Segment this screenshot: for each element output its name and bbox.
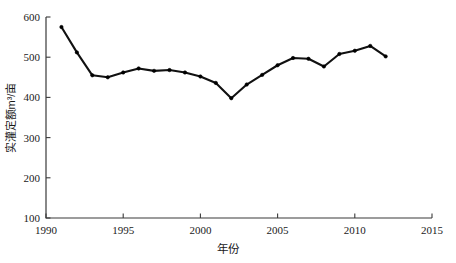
data-point-marker [152,69,155,72]
data-point-marker [75,51,78,54]
data-point-marker [338,52,341,55]
y-axis-tick-label: 500 [24,51,41,63]
data-point-marker [230,97,233,100]
data-point-marker [353,49,356,52]
data-point-marker [91,74,94,77]
y-axis-tick-label: 300 [24,132,41,144]
data-point-marker [291,56,294,59]
y-axis-tick-label: 200 [24,172,41,184]
data-point-marker [183,71,186,74]
axis-spines [46,17,432,218]
x-axis-tick-label: 2005 [267,224,290,236]
data-point-marker [168,68,171,71]
data-series-line [61,27,385,98]
y-axis-tick-label: 400 [24,91,41,103]
line-chart: 1002003004005006001990199520002005201020… [0,0,456,263]
x-axis-tick-label: 2010 [344,224,367,236]
data-point-marker [307,57,310,60]
chart-canvas: 1002003004005006001990199520002005201020… [0,0,456,263]
data-point-marker [260,73,263,76]
data-point-marker [245,83,248,86]
x-axis-title: 年份 [0,240,456,256]
data-point-marker [322,65,325,68]
data-point-marker [276,64,279,67]
x-axis-tick-label: 2000 [189,224,212,236]
x-axis-tick-label: 1990 [35,224,58,236]
x-axis-tick-label: 1995 [112,224,135,236]
data-point-marker [137,67,140,70]
data-point-marker [384,55,387,58]
y-axis-tick-label: 100 [24,212,41,224]
data-point-marker [199,75,202,78]
data-point-marker [106,76,109,79]
data-point-marker [122,71,125,74]
x-axis-tick-label: 2015 [421,224,444,236]
data-point-marker [214,81,217,84]
y-axis-tick-label: 600 [24,11,41,23]
data-point-marker [60,25,63,28]
data-point-marker [369,44,372,47]
